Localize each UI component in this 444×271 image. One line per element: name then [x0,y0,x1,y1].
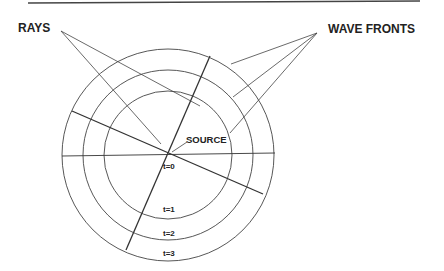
rays-leader-1 [61,31,161,144]
rays-label: RAYS [18,21,50,35]
wave-diagram: RAYS WAVE FRONTS SOURCE t=0 t=1 t=2 t=3 [0,0,444,271]
t0-label: t=0 [163,162,175,171]
source-label: SOURCE [186,134,227,145]
wave-fronts-label: WAVE FRONTS [328,22,415,36]
wavefront-leader-3 [230,33,317,133]
t1-label: t=1 [163,205,175,214]
rays-leader-2 [61,31,200,106]
top-rule [28,1,420,3]
rays [62,56,275,250]
ray-diagonal [72,111,263,194]
ray-steep [126,56,210,250]
source-leader [172,142,187,152]
t2-label: t=2 [163,229,175,238]
t3-label: t=3 [163,249,175,258]
wavefront-leader-2 [233,33,317,97]
wavefront-leader-1 [231,33,317,64]
